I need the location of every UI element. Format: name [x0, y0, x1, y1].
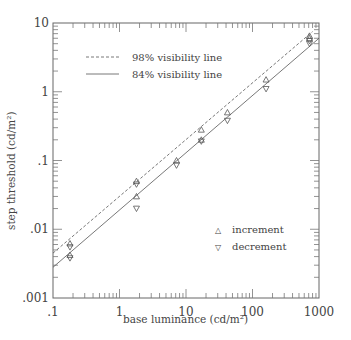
x-axis-label: base luminance (cd/m²)	[123, 313, 248, 325]
triangle-up-marker	[174, 158, 180, 163]
legend-decrement-label: decrement	[232, 241, 286, 252]
triangle-up-icon: △	[215, 226, 222, 235]
x-tick-label: 1000	[304, 305, 335, 319]
triangle-down-marker	[67, 256, 73, 261]
triangle-up-marker	[198, 127, 204, 132]
y-tick-label: .001	[22, 291, 49, 305]
triangle-up-marker	[67, 241, 73, 246]
triangle-down-marker	[174, 163, 180, 168]
legend-dashed-label: 98% visibility line	[132, 52, 222, 63]
y-tick-label: 1	[41, 85, 49, 99]
legend-increment-label: increment	[232, 224, 284, 235]
triangle-down-marker	[133, 182, 139, 187]
y-tick-labels: .001 .01 .1 1 10	[22, 16, 49, 305]
triangle-down-marker	[224, 118, 230, 123]
legend-top: 98% visibility line 84% visibility line	[86, 52, 222, 80]
chart-svg: .1 1 10 100 1000 .001 .01 .1 1 10 base l…	[0, 0, 351, 340]
legend-solid-label: 84% visibility line	[132, 69, 222, 80]
y-tick-label: .01	[30, 222, 49, 236]
triangle-down-icon: ▽	[215, 243, 222, 252]
axis-ticks	[53, 23, 319, 298]
triangle-down-marker	[133, 206, 139, 211]
triangle-down-marker	[263, 87, 269, 92]
triangle-up-marker	[263, 77, 269, 82]
x-tick-label: .1	[47, 305, 58, 319]
y-axis-label: step threshold (cd/m²)	[5, 112, 17, 230]
triangle-up-marker	[224, 109, 230, 114]
plot-frame	[53, 23, 319, 298]
legend-bottom: △ increment ▽ decrement	[215, 224, 286, 252]
triangle-up-marker	[133, 193, 139, 198]
y-tick-label: .1	[38, 154, 49, 168]
triangle-down-marker	[67, 245, 73, 250]
visibility-line	[53, 32, 313, 254]
y-tick-label: 10	[34, 16, 49, 30]
